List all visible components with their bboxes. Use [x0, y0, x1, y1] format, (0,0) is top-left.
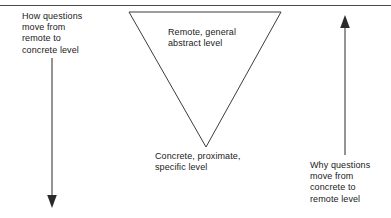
down-arrow-icon	[47, 58, 57, 208]
right-annotation-text: Why questions move from concrete to remo…	[310, 160, 391, 205]
left-annotation-text: How questions move from remote to concre…	[22, 11, 118, 56]
up-arrow-icon	[340, 15, 350, 155]
triangle-top-label: Remote, general abstract level	[168, 27, 268, 49]
triangle-apex-label: Concrete, proximate, specific level	[155, 151, 280, 173]
figure-canvas: How questions move from remote to concre…	[0, 0, 391, 218]
